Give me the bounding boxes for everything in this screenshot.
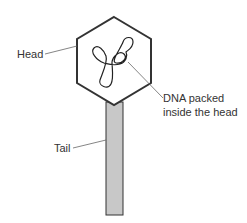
tail-label: Tail [54, 142, 71, 155]
dna-label-line1: DNA packed [163, 92, 224, 105]
head-leader-line [45, 46, 77, 54]
tail-leader-line [73, 140, 106, 148]
dna-label-line2: inside the head [163, 106, 238, 119]
head-label: Head [17, 48, 43, 61]
tail-shape [106, 102, 123, 215]
